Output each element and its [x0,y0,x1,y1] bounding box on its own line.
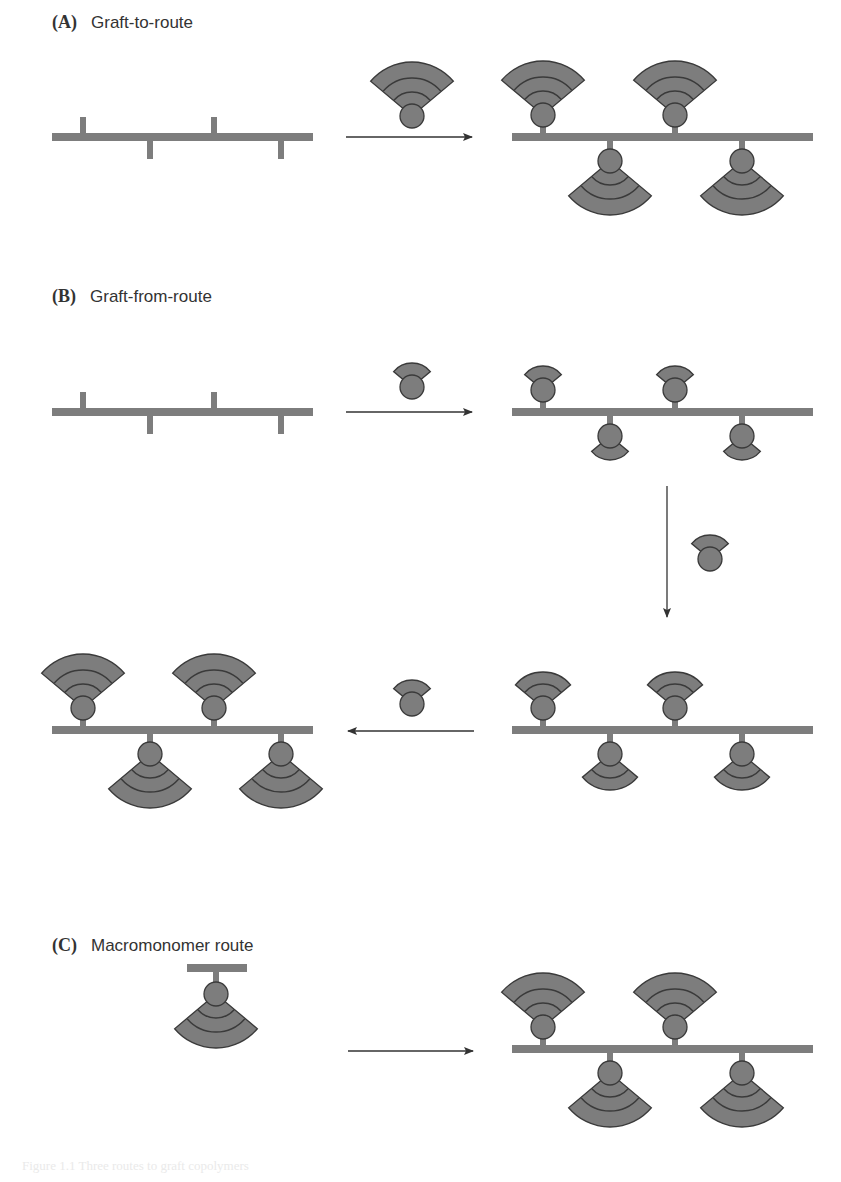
graft-chain-down [592,424,629,460]
initiator-site-icon [400,104,424,128]
initiator-site-icon [138,742,162,766]
initiator-site-icon [698,547,722,571]
graft-chain-up [42,654,125,720]
polymerizable-end-group [187,964,247,972]
initiator-site-icon [598,424,622,448]
graft-chain-up [525,366,562,402]
initiator-site-icon [204,982,228,1006]
backbone-bar [512,408,813,416]
backbone-bar [52,726,313,734]
macromonomer [175,964,258,1048]
initiator-site-icon [400,692,424,716]
free-unit-B-monomer-2 [692,535,729,571]
backbone-C-product [502,973,813,1127]
panel-a-label: (A)Graft-to-route [52,12,193,33]
initiator-site-icon [531,1015,555,1039]
backbone-bar [52,133,313,141]
initiator-site-icon [400,375,424,399]
initiator-site-icon [202,696,226,720]
figure-caption: Figure 1.1 Three routes to graft copolym… [22,1158,249,1174]
free-unit-B-monomer-1 [394,363,431,399]
graft-chain-down [701,1061,784,1127]
initiator-site-icon [730,1061,754,1085]
initiator-site-icon [531,378,555,402]
backbone-A-product [502,61,813,215]
panel-b-letter: (B) [52,286,76,306]
initiator-site-icon [663,1015,687,1039]
graft-chain-up [634,973,717,1039]
initiator-site-icon [730,742,754,766]
graft-copolymer-diagram [0,0,841,1182]
backbone-B-start [52,392,313,434]
graft-chain-down [569,149,652,215]
initiator-site-icon [598,149,622,173]
initiator-site-icon [531,696,555,720]
initiator-site-icon [663,696,687,720]
graft-chain-up [515,672,570,720]
backbone-B-step2 [512,672,813,790]
graft-stem [213,972,219,982]
backbone-A-start [52,117,313,159]
graft-chain-up [657,366,694,402]
initiator-site-icon [71,696,95,720]
macromonomer-chain [175,982,258,1048]
initiator-site-icon [730,424,754,448]
backbones-layer [42,61,813,1127]
initiator-site-icon [598,742,622,766]
graft-chain-up [634,61,717,127]
free-units-layer [175,62,729,1048]
graft-chain-up [173,654,256,720]
graft-chain-up [502,973,585,1039]
arrows-layer [346,137,667,1051]
graft-chain-down [569,1061,652,1127]
free-unit-A-polymer-chain [371,62,454,128]
backbone-B-step3 [42,654,323,808]
backbone-B-step1 [512,366,813,460]
graft-chain-down [109,742,192,808]
panel-a-letter: (A) [52,12,77,32]
initiator-site-icon [531,103,555,127]
graft-chain-up [502,61,585,127]
backbone-bar [512,1045,813,1053]
free-unit-B-monomer-3 [394,680,431,716]
graft-chain-down [724,424,761,460]
graft-chain-down [582,742,637,790]
graft-chain-down [701,149,784,215]
panel-c-title: Macromonomer route [91,936,254,955]
initiator-site-icon [730,149,754,173]
initiator-site-icon [598,1061,622,1085]
backbone-bar [512,133,813,141]
panel-b-title: Graft-from-route [90,287,212,306]
panel-b-label: (B)Graft-from-route [52,286,212,307]
panel-c-label: (C)Macromonomer route [52,935,254,956]
panel-a-title: Graft-to-route [91,13,193,32]
graft-chain-down [240,742,323,808]
graft-chain-down [714,742,769,790]
initiator-site-icon [663,378,687,402]
initiator-site-icon [663,103,687,127]
backbone-bar [512,726,813,734]
panel-c-letter: (C) [52,935,77,955]
initiator-site-icon [269,742,293,766]
graft-chain-up [647,672,702,720]
backbone-bar [52,408,313,416]
